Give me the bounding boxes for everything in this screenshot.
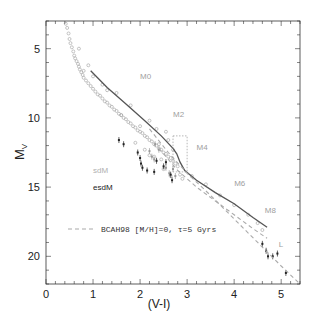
data-point	[146, 136, 149, 139]
y-tick-label: 20	[28, 250, 40, 262]
y-axis-title: MV	[12, 143, 29, 160]
data-point	[94, 90, 97, 93]
data-point	[163, 165, 165, 167]
annotation-l: L	[279, 240, 284, 249]
data-point	[87, 82, 90, 85]
y-tick-label: 5	[34, 43, 40, 55]
data-point	[167, 139, 170, 142]
data-point	[146, 169, 148, 171]
data-point	[276, 253, 278, 255]
axes: 0123455101520	[28, 21, 300, 300]
y-axis-title-sub: V	[20, 143, 29, 149]
annotation-m2: M2	[173, 110, 185, 119]
data-point	[150, 140, 153, 143]
data-point	[153, 158, 155, 160]
data-point	[141, 132, 144, 135]
data-point	[106, 101, 109, 104]
data-point	[87, 64, 90, 67]
y-tick-label: 10	[28, 112, 40, 124]
data-point	[261, 243, 263, 245]
x-axis-title: (V-I)	[148, 297, 171, 311]
annotation-m0: M0	[140, 72, 152, 81]
annotation-m4: M4	[197, 143, 209, 152]
data-point	[66, 26, 69, 29]
data-point	[148, 119, 151, 122]
data-point	[69, 42, 72, 45]
annotations: M0M2M4M6M8LsdMesdM	[93, 72, 284, 248]
data-point	[77, 47, 80, 50]
data-point	[141, 167, 143, 169]
data-point	[99, 94, 102, 97]
y-tick-label: 15	[28, 181, 40, 193]
data-point	[285, 272, 287, 274]
m4-region-box	[173, 136, 187, 172]
annotation-sdm: sdM	[93, 166, 108, 175]
data-point	[89, 85, 92, 88]
data-point	[140, 163, 142, 165]
annotation-esdm: esdM	[93, 183, 113, 192]
data-point	[176, 165, 179, 168]
data-point	[134, 126, 137, 129]
y-axis-title-main: M	[12, 149, 27, 160]
data-point	[137, 152, 139, 154]
data-point	[143, 148, 146, 151]
data-point	[70, 46, 73, 49]
x-tick-label: 2	[137, 288, 143, 300]
legend-label: BCAH98 [M/H]=0, τ=5 Gyrs	[101, 225, 216, 234]
data-point	[134, 141, 137, 144]
data-point	[139, 157, 141, 159]
data-point	[120, 114, 123, 117]
data-point	[179, 173, 182, 176]
model-isochrone-line	[149, 129, 300, 284]
data-point	[148, 150, 150, 152]
data-point	[156, 160, 158, 162]
data-point	[174, 162, 177, 165]
data-point	[129, 122, 132, 125]
data-point	[67, 32, 70, 35]
data-point	[84, 79, 87, 82]
data-point	[148, 154, 151, 157]
data-point	[92, 87, 95, 90]
data-point	[101, 97, 104, 100]
data-point	[151, 156, 153, 158]
data-point	[165, 161, 167, 163]
data-point	[153, 171, 155, 173]
annotation-m8: M8	[265, 206, 277, 215]
hr-diagram-chart: 0123455101520 M0M2M4M6M8LsdMesdM BCAH98 …	[0, 0, 316, 326]
data-point	[124, 118, 127, 121]
data-point	[82, 69, 85, 72]
x-tick-label: 0	[43, 288, 49, 300]
data-point	[123, 143, 125, 145]
data-point	[110, 105, 113, 108]
data-point	[171, 179, 173, 181]
data-point	[68, 37, 71, 40]
data-point	[92, 75, 95, 78]
x-tick-label: 5	[278, 288, 284, 300]
data-point	[72, 50, 75, 53]
x-tick-label: 4	[231, 288, 237, 300]
data-point	[118, 139, 120, 141]
data-point	[267, 255, 269, 257]
data-point	[174, 175, 176, 177]
data-point	[181, 177, 184, 180]
data-point	[261, 229, 264, 232]
data-point	[170, 174, 172, 176]
data-point	[115, 109, 118, 112]
x-tick-label: 1	[90, 288, 96, 300]
data-point	[82, 76, 85, 79]
data-point	[160, 158, 163, 161]
data-point	[157, 143, 160, 146]
plot-area	[64, 22, 300, 284]
annotation-m6: M6	[234, 179, 246, 188]
data-point	[165, 167, 167, 169]
x-tick-label: 3	[184, 288, 190, 300]
data-point	[164, 130, 167, 133]
data-point	[154, 143, 156, 145]
data-point	[139, 125, 142, 128]
legend: BCAH98 [M/H]=0, τ=5 Gyrs	[68, 225, 216, 234]
